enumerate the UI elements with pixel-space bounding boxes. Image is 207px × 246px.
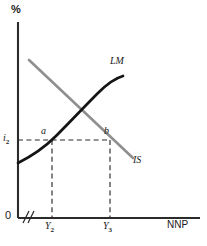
point-b-label: b: [104, 126, 109, 136]
y-tick-label-i2: i2: [3, 133, 9, 146]
is-lm-diagram: % 0 i2 Y2 Y3 NNP LM IS a b: [0, 0, 207, 246]
lm-curve: [18, 76, 123, 163]
plot-area: [0, 0, 207, 246]
origin-label: 0: [5, 210, 11, 221]
x-tick-label-y3: Y3: [103, 221, 112, 234]
y-tick-label-i2-sub: 2: [6, 138, 10, 146]
lm-curve-label: LM: [110, 56, 124, 66]
y-axis-label: %: [11, 4, 21, 15]
x-axis-label: NNP: [167, 220, 188, 230]
x-tick-label-y2-sub: 2: [51, 226, 55, 234]
point-a-label: a: [41, 126, 46, 136]
x-tick-label-y2: Y2: [45, 221, 54, 234]
is-curve-label: IS: [133, 155, 141, 165]
x-tick-label-y3-sub: 3: [109, 226, 113, 234]
